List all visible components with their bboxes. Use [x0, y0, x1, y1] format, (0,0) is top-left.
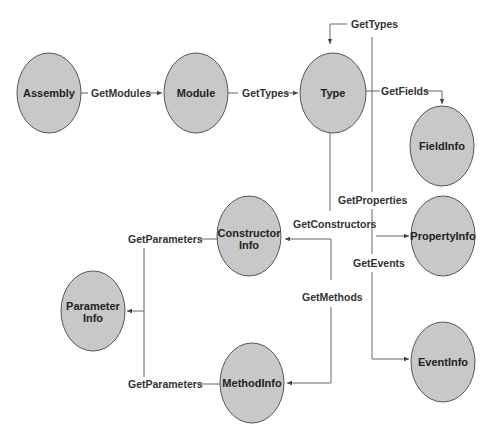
edge-gettypes-module: GetTypes	[228, 87, 298, 99]
node-constructorinfo: Constructor Info	[217, 196, 281, 276]
edge-label: GetMethods	[302, 291, 363, 303]
svg-text:Module: Module	[177, 87, 216, 99]
svg-text:Assembly: Assembly	[23, 87, 76, 99]
node-eventinfo: EventInfo	[411, 322, 475, 402]
svg-text:MethodInfo: MethodInfo	[222, 377, 282, 389]
edge-label: GetModules	[91, 87, 151, 99]
edge-label: GetProperties	[338, 194, 408, 206]
node-methodinfo: MethodInfo	[220, 343, 284, 423]
edge-getfields: GetFields	[366, 85, 442, 104]
svg-text:Info: Info	[239, 239, 259, 251]
edge-label: GetFields	[381, 85, 429, 97]
node-parameterinfo: Parameter Info	[61, 271, 125, 351]
node-module: Module	[164, 53, 228, 133]
node-propertyinfo: PropertyInfo	[410, 196, 476, 276]
edge-label: GetParameters	[128, 378, 203, 390]
svg-text:PropertyInfo: PropertyInfo	[410, 230, 476, 242]
edge-label: GetEvents	[353, 257, 405, 269]
svg-text:FieldInfo: FieldInfo	[419, 140, 465, 152]
svg-text:EventInfo: EventInfo	[418, 356, 468, 368]
edge-getparameters-method: GetParameters	[128, 311, 221, 390]
svg-text:Info: Info	[83, 312, 103, 324]
edge-label: GetTypes	[242, 87, 289, 99]
edge-gettypes-self: GetTypes	[330, 18, 398, 44]
edge-label: GetConstructors	[293, 218, 377, 230]
edge-getevents: GetEvents	[353, 257, 409, 359]
node-assembly: Assembly	[17, 53, 81, 133]
svg-text:Constructor: Constructor	[218, 227, 282, 239]
edge-getmodules: GetModules	[81, 87, 162, 99]
node-type: Type	[300, 53, 366, 133]
edge-getparameters-constructor: GetParameters	[127, 233, 218, 311]
edge-label: GetParameters	[128, 233, 203, 245]
node-fieldinfo: FieldInfo	[410, 106, 474, 186]
edge-label: GetTypes	[351, 18, 398, 30]
reflection-diagram: GetModules GetTypes GetTypes GetFields G…	[0, 0, 496, 438]
svg-text:Type: Type	[321, 87, 346, 99]
svg-text:Parameter: Parameter	[66, 300, 121, 312]
edge-getmethods: GetMethods	[287, 291, 363, 383]
